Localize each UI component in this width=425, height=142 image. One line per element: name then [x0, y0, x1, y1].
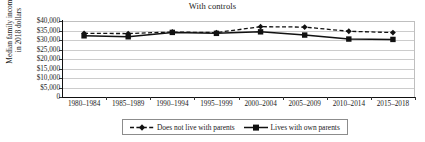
y-axis-tick-label: 0: [4, 93, 60, 101]
data-point-marker: [81, 33, 86, 38]
y-axis-tick-label: $30,000: [4, 36, 60, 44]
y-axis-line: [62, 20, 63, 98]
data-point-marker: [346, 36, 351, 41]
data-point-marker: [346, 28, 352, 34]
legend-swatch-solid-square: [244, 123, 268, 132]
chart-title: With controls: [0, 1, 425, 11]
y-axis-tick-label: $15,000: [4, 65, 60, 73]
data-point-marker: [390, 37, 395, 42]
legend-label-does-not-live-with-parents: Does not live with parents: [157, 123, 235, 132]
y-axis-tick-label: $25,000: [4, 46, 60, 54]
data-point-marker: [170, 30, 175, 35]
legend-swatch-dashed-diamond: [130, 123, 154, 132]
y-axis-tick-label: $10,000: [4, 74, 60, 82]
chart-legend: Does not live with parents Lives with ow…: [122, 119, 348, 135]
plot-area: [62, 21, 415, 97]
data-point-marker: [258, 29, 263, 34]
legend-entry-lives-with-own-parents[interactable]: Lives with own parents: [244, 123, 340, 132]
y-axis-tick-label: $20,000: [4, 55, 60, 63]
y-axis-tick-label: $40,000: [4, 17, 60, 25]
series-lines: [62, 21, 415, 97]
data-point-marker: [214, 31, 219, 36]
chart-figure: With controls Median family income in 20…: [0, 0, 425, 142]
data-point-marker: [125, 34, 130, 39]
data-point-marker: [258, 24, 264, 30]
y-axis-tick-labels: $40,000$35,000$30,000$25,000$20,000$15,0…: [0, 0, 60, 142]
y-axis-tick-label: $35,000: [4, 27, 60, 35]
data-point-marker: [302, 24, 308, 30]
data-point-marker: [302, 32, 307, 37]
y-axis-tick-label: $5,000: [4, 84, 60, 92]
data-point-marker: [390, 30, 396, 36]
legend-entry-does-not-live-with-parents[interactable]: Does not live with parents: [130, 123, 235, 132]
x-axis-tick-labels: 1980–19841985–19891990–19941995–19992000…: [62, 100, 415, 114]
legend-label-lives-with-own-parents: Lives with own parents: [271, 123, 340, 132]
x-axis-tick-label: 2015–2018: [363, 100, 423, 108]
